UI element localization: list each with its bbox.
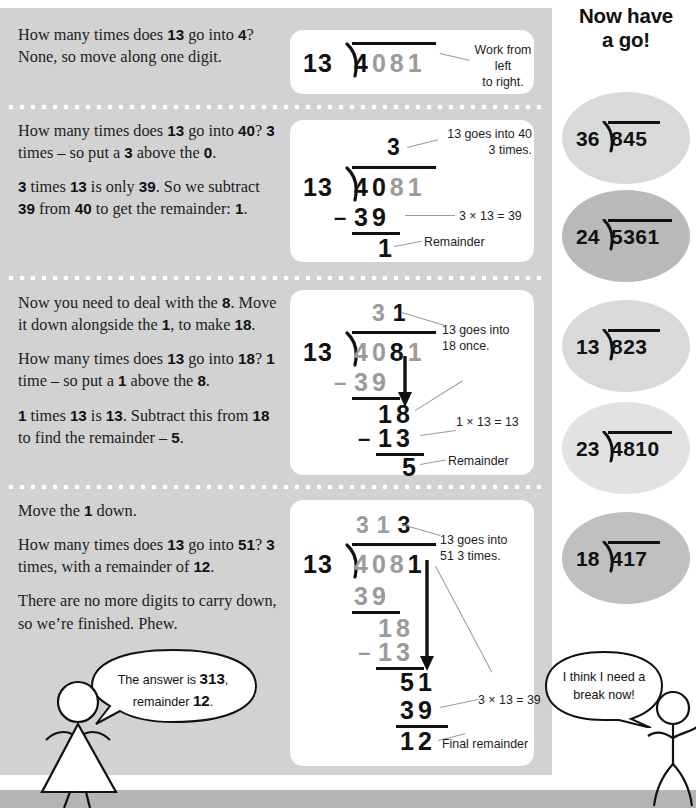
left-stick-figure <box>28 680 148 808</box>
inline-number: 5 <box>171 429 179 446</box>
practice-divisor: 24 <box>576 225 599 249</box>
sum3-leader-4 <box>420 459 446 465</box>
sum3-divisor: 13 <box>303 338 333 367</box>
inline-number: 18 <box>234 316 251 333</box>
practice-dividend: 4810 <box>611 437 660 461</box>
sum4-row-51: 51 <box>400 668 436 697</box>
practice-problem-5[interactable]: 18417 <box>562 512 690 604</box>
digit: 4 <box>354 338 372 366</box>
sum2-minus-sign: – <box>334 205 346 231</box>
worked-sum-1-card: 13 4081 Work from left to right. <box>290 30 534 94</box>
sum2-leader-3 <box>394 241 422 248</box>
inline-number: 39 <box>139 178 156 195</box>
inline-number: 0 <box>204 144 212 161</box>
digit: 4 <box>354 49 372 77</box>
inline-number: 313 <box>200 670 225 687</box>
sum4-leader-2 <box>435 566 493 673</box>
lesson-paragraph: How many times does 13 go into 40? 3 tim… <box>18 120 280 164</box>
sum3-vinculum <box>352 331 436 334</box>
sum1-callout-work-left-right: Work from left to right. <box>472 42 534 90</box>
practice-heading: Now have a go! <box>556 4 696 52</box>
lesson-paragraph: How many times does 13 go into 4? None, … <box>18 24 280 68</box>
digit: 0 <box>372 49 390 77</box>
sum1-dividend: 4081 <box>354 49 426 78</box>
sum2-divisor: 13 <box>303 173 333 202</box>
sum3-subtraction-line-2 <box>376 453 424 456</box>
worked-sum-2-card: 3 13 4081 – 39 1 13 goes into 40 3 times… <box>290 120 534 262</box>
practice-problem-3[interactable]: 13823 <box>562 300 690 392</box>
lesson-paragraph: How many times does 13 go into 18? 1 tim… <box>18 348 280 392</box>
practice-problem-1[interactable]: 36845 <box>562 92 690 184</box>
practice-vinculum <box>608 329 660 332</box>
inline-number: 12 <box>193 558 210 575</box>
digit: 4 <box>354 550 372 578</box>
practice-sum: 18417 <box>576 541 676 575</box>
inline-number: 39 <box>18 200 35 217</box>
inline-number: 13 <box>167 122 184 139</box>
practice-vinculum <box>608 541 660 544</box>
sum3-callout-13-into-18: 13 goes into 18 once. <box>442 322 534 354</box>
lesson-paragraph: How many times does 13 go into 51? 3 tim… <box>18 534 280 578</box>
inline-number: 18 <box>252 407 269 424</box>
digit: 8 <box>390 49 408 77</box>
worked-sum-4-card: 313 13 4081 39 18 – 13 51 39 12 13 goes … <box>290 500 534 766</box>
sum2-callout-13-into-40: 13 goes into 40 3 times. <box>442 126 532 158</box>
sum3-leader-3 <box>420 430 456 436</box>
practice-divisor: 23 <box>576 437 599 461</box>
sum3-subtract-row-2: 13 <box>378 424 414 453</box>
sum2-callout-3x13: 3 × 13 = 39 <box>459 208 535 224</box>
digit: 1 <box>408 49 426 77</box>
practice-vinculum <box>608 121 660 124</box>
sum3-callout-1x13: 1 × 13 = 13 <box>456 414 536 430</box>
sum2-remainder: 1 <box>378 234 392 263</box>
sum2-subtraction-line <box>352 232 400 235</box>
sum4-row-39-final: 39 <box>400 696 436 725</box>
sum1-divisor: 13 <box>303 49 333 78</box>
inline-number: 13 <box>70 407 87 424</box>
practice-vinculum <box>608 431 672 434</box>
lesson-paragraph: Now you need to deal with the 8. Move it… <box>18 292 280 336</box>
practice-problem-4[interactable]: 234810 <box>562 402 690 494</box>
sum4-row-39: 39 <box>354 582 390 611</box>
practice-problem-2[interactable]: 245361 <box>562 190 690 282</box>
inline-number: 1 <box>162 316 170 333</box>
digit: 4 <box>354 173 372 201</box>
sum4-divisor: 13 <box>303 550 333 579</box>
right-speech-bubble-text: I think I need abreak now! <box>549 668 659 705</box>
practice-divisor: 36 <box>576 127 599 151</box>
digit: 3 <box>387 134 406 160</box>
practice-sum: 245361 <box>576 219 676 253</box>
lesson-paragraph: 1 times 13 is 13. Subtract this from 18 … <box>18 405 280 449</box>
inline-number: 13 <box>167 26 184 43</box>
sum4-leader-3 <box>440 699 479 709</box>
sum2-vinculum <box>352 166 436 169</box>
practice-dividend: 845 <box>611 127 648 151</box>
practice-heading-line2: a go! <box>556 28 696 52</box>
section-divider-2 <box>8 275 544 281</box>
practice-divisor: 18 <box>576 547 599 571</box>
lesson-paragraph: 3 times 13 is only 39. So we subtract 39… <box>18 176 280 220</box>
inline-number: 3 <box>124 144 132 161</box>
practice-heading-line1: Now have <box>556 4 696 28</box>
worksheet-page: How many times does 13 go into 4? None, … <box>0 0 696 808</box>
sum3-remainder: 5 <box>402 453 416 482</box>
sum3-minus-sign-1: – <box>334 370 346 396</box>
inline-number: 12 <box>193 692 210 709</box>
inline-number: 40 <box>238 122 255 139</box>
sum2-callout-remainder: Remainder <box>424 234 510 250</box>
practice-dividend: 417 <box>611 547 648 571</box>
sum4-dividend: 4081 <box>354 550 426 579</box>
practice-vinculum <box>608 219 672 222</box>
practice-dividend: 5361 <box>611 225 660 249</box>
digit: 8 <box>390 173 408 201</box>
sum4-minus-sign: – <box>358 640 370 666</box>
sum2-quotient: 3 <box>387 134 406 161</box>
inline-number: 1 <box>266 350 274 367</box>
sum2-dividend: 4081 <box>354 173 426 202</box>
section-divider-3 <box>8 484 544 490</box>
practice-sum: 234810 <box>576 431 676 465</box>
inline-number: 13 <box>106 407 123 424</box>
sum4-bring-down-arrow <box>418 560 436 672</box>
digit: 3 <box>372 300 393 326</box>
digit: 1 <box>377 512 398 538</box>
